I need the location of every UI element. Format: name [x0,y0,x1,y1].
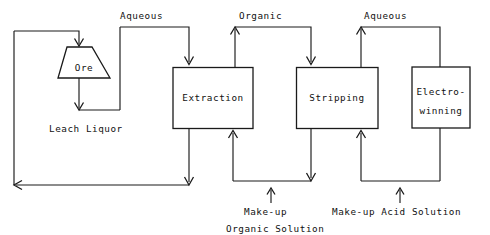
aqueous-left-label: Aqueous [120,9,163,22]
organic-header [235,27,311,62]
electrowinning-label-line2: winning [412,104,470,117]
makeup-organic-label-line2: Organic Solution [226,222,324,235]
ore-label: Ore [58,61,110,74]
stripping-label: Stripping [296,91,378,104]
process-flow-diagram: Ore Extraction Stripping Electro- winnin… [0,0,490,235]
extraction-label: Extraction [173,91,253,104]
flow-diagram-canvas [0,0,490,235]
makeup-organic-label-line1: Make-up [244,205,287,218]
electrowinning-label-line1: Electro- [412,85,470,98]
makeup-acid-label: Make-up Acid Solution [332,205,461,218]
aqueous-right-label: Aqueous [364,9,407,22]
aqueous-left-header [120,27,189,62]
aqueous-right-header [361,27,440,67]
organic-label: Organic [239,9,282,22]
raffinate-to-ore-line [14,31,79,44]
leach-liquor-label: Leach Liquor [49,122,123,135]
